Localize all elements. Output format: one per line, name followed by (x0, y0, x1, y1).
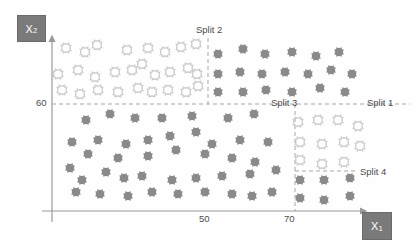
data-point-marker (127, 65, 136, 74)
data-point-marker (163, 85, 172, 94)
data-point-marker (173, 189, 182, 198)
data-point-marker (75, 89, 84, 98)
data-point-marker (65, 163, 74, 172)
data-point-marker (295, 137, 304, 146)
data-point-marker (101, 167, 110, 176)
data-point-marker (334, 47, 343, 56)
data-point-marker (287, 87, 296, 96)
data-point-marker (167, 175, 176, 184)
data-point-marker (238, 44, 247, 53)
data-point-marker (95, 189, 104, 198)
data-point-marker (326, 65, 335, 74)
data-point-marker (191, 173, 200, 182)
data-point-marker (245, 169, 254, 178)
data-point-marker (165, 67, 174, 76)
data-point-marker (193, 81, 202, 90)
data-point-marker (73, 65, 82, 74)
data-point-marker (303, 69, 312, 78)
split-2-label: Split 2 (196, 24, 222, 35)
data-point-marker (311, 51, 320, 60)
data-point-marker (200, 187, 209, 196)
data-point-marker (249, 109, 258, 118)
data-point-marker (171, 145, 180, 154)
data-point-marker (143, 135, 152, 144)
data-point-marker (93, 135, 102, 144)
data-point-marker (119, 173, 128, 182)
data-point-marker (257, 69, 266, 78)
data-point-marker (287, 47, 296, 56)
data-point-marker (192, 69, 201, 78)
data-point-marker (191, 39, 200, 48)
data-point-marker (191, 127, 200, 136)
data-point-marker (143, 43, 152, 52)
split-lines (52, 38, 410, 211)
data-point-marker (110, 67, 119, 76)
data-point-marker (81, 115, 90, 124)
data-point-marker (147, 187, 156, 196)
data-point-marker (92, 40, 101, 49)
data-point-marker (271, 165, 280, 174)
split-3-label: Split 3 (271, 97, 297, 108)
data-point-marker (113, 153, 122, 162)
point-group-region-top-left-light (53, 39, 202, 98)
data-point-marker (90, 72, 99, 81)
data-point-marker (157, 113, 166, 122)
data-point-marker (147, 87, 156, 96)
data-point-marker (315, 83, 324, 92)
data-point-marker (340, 87, 349, 96)
data-point-marker (57, 85, 66, 94)
data-point-marker (187, 111, 196, 120)
y-axis-tick-60: 60 (36, 97, 47, 108)
data-point-marker (121, 139, 130, 148)
data-point-marker (247, 191, 256, 200)
data-point-marker (77, 175, 86, 184)
data-point-marker (143, 151, 152, 160)
data-point-marker (345, 173, 354, 182)
data-point-marker (319, 175, 328, 184)
data-point-marker (213, 87, 222, 96)
point-group-region-bottom-right-upper-light (293, 115, 364, 168)
data-point-marker (67, 137, 76, 146)
y-axis-label-text: X (26, 23, 34, 35)
data-point-marker (207, 139, 216, 148)
data-point-marker (93, 85, 102, 94)
data-point-marker (227, 189, 236, 198)
data-point-marker (83, 149, 92, 158)
data-point-marker (345, 191, 354, 200)
x-axis-tick-70: 70 (284, 213, 295, 224)
data-point-marker (339, 137, 348, 146)
data-point-marker (53, 69, 62, 78)
data-point-marker (313, 115, 322, 124)
data-point-marker (71, 187, 80, 196)
data-point-marker (213, 49, 222, 58)
data-point-marker (137, 59, 146, 68)
data-point-marker (295, 155, 304, 164)
data-point-marker (235, 67, 244, 76)
data-point-marker (353, 121, 362, 130)
data-point-marker (137, 171, 146, 180)
data-point-marker (183, 63, 192, 72)
data-point-marker (160, 47, 169, 56)
data-point-marker (213, 69, 222, 78)
x-axis-label-subscript: 1 (379, 225, 383, 232)
data-point-marker (165, 131, 174, 140)
data-point-marker (176, 42, 185, 51)
data-point-marker (280, 67, 289, 76)
data-point-marker (133, 83, 142, 92)
data-point-marker (339, 157, 348, 166)
data-point-marker (295, 175, 304, 184)
data-point-marker (319, 195, 328, 204)
data-point-marker (317, 139, 326, 148)
x-axis-tick-50: 50 (199, 213, 210, 224)
data-point-marker (333, 115, 342, 124)
data-point-marker (80, 47, 89, 56)
data-point-marker (355, 141, 364, 150)
data-point-marker (150, 70, 159, 79)
data-point-marker (260, 49, 269, 58)
data-point-marker (130, 113, 139, 122)
data-point-marker (347, 69, 356, 78)
point-group-region-bottom-right-lower-dark (295, 173, 354, 204)
y-axis-label-subscript: 2 (33, 27, 37, 34)
data-point-marker (113, 87, 122, 96)
point-group-region-bottom-left-dark (65, 109, 280, 200)
